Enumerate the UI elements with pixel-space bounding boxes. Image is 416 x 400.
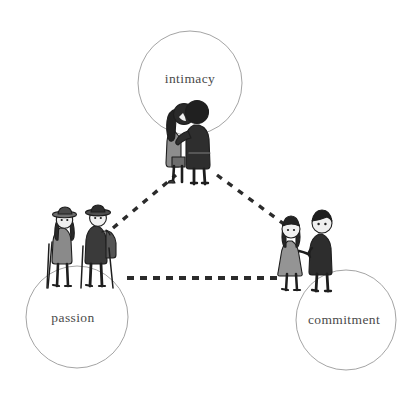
triangular-love-diagram: intimacy passion commitment [0, 0, 416, 400]
node-label-intimacy: intimacy [165, 71, 215, 87]
node-label-commitment: commitment [308, 312, 380, 328]
couple-embracing-icon [156, 95, 228, 187]
node-label-passion: passion [51, 310, 94, 326]
connectors [113, 175, 288, 278]
diagram-vector-layer [0, 0, 416, 400]
couple-holding-hands-icon [274, 204, 350, 294]
two-hikers-icon [46, 202, 128, 294]
